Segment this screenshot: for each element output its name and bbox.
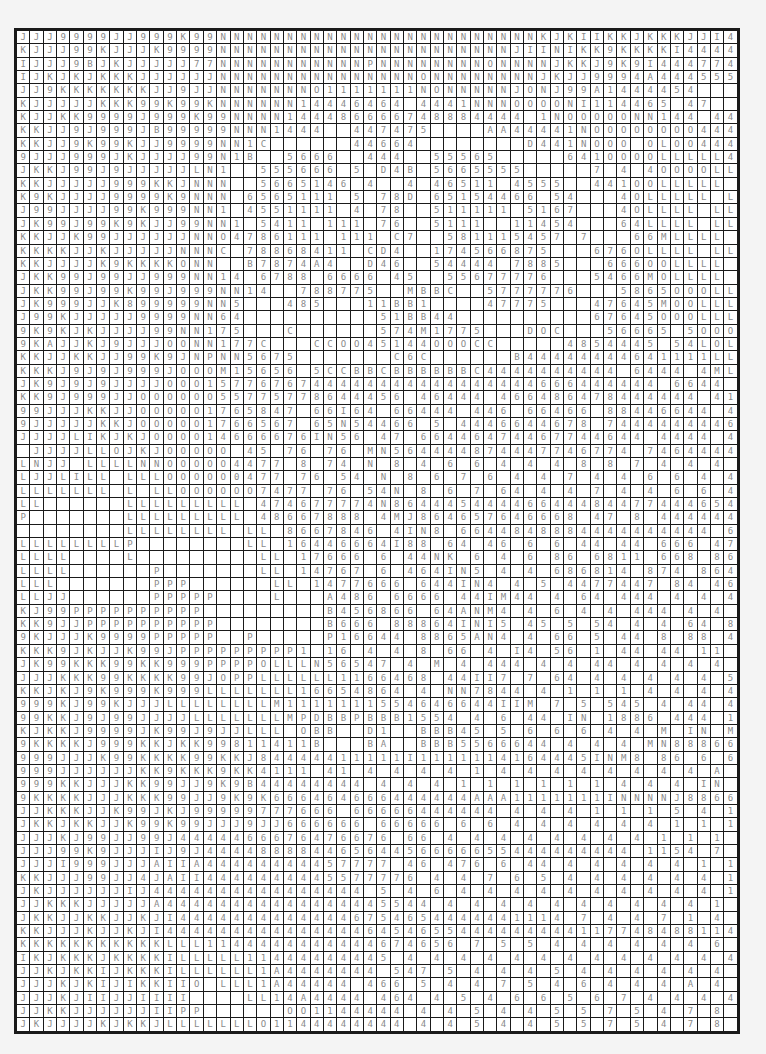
grid-cell: 4 [591, 525, 603, 537]
grid-cell [137, 551, 149, 563]
grid-cell: O [337, 338, 349, 350]
grid-cell: 9 [177, 98, 189, 110]
grid-cell: 8 [311, 391, 323, 403]
grid-cell: K [17, 685, 29, 697]
grid-cell: N [204, 258, 216, 270]
grid-cell: 6 [604, 431, 616, 443]
grid-cell [137, 578, 149, 590]
grid-cell: 4 [311, 1018, 323, 1030]
grid-cell: C [444, 285, 456, 297]
grid-cell [324, 471, 336, 483]
grid-cell: B [244, 778, 256, 790]
grid-cell [511, 672, 523, 684]
grid-cell [604, 778, 616, 790]
grid-cell: 4 [684, 511, 696, 523]
grid-cell [564, 538, 576, 550]
grid-cell: 4 [511, 431, 523, 443]
grid-cell: J [84, 898, 96, 910]
grid-cell: 4 [684, 445, 696, 457]
grid-cell: 6 [324, 805, 336, 817]
grid-cell: 4 [190, 898, 202, 910]
grid-cell: K [124, 258, 136, 270]
grid-cell: L [17, 458, 29, 470]
grid-cell: B [324, 725, 336, 737]
grid-cell: 7 [698, 98, 710, 110]
grid-cell: J [57, 391, 69, 403]
grid-cell: 4 [644, 84, 656, 96]
grid-cell [417, 952, 429, 964]
grid-cell: 9 [190, 805, 202, 817]
grid-cell: 7 [511, 285, 523, 297]
grid-cell: 6 [457, 525, 469, 537]
grid-cell: 1 [457, 218, 469, 230]
grid-cell: 5 [577, 1005, 589, 1017]
grid-cell: 4 [724, 431, 736, 443]
grid-cell: J [137, 151, 149, 163]
grid-cell: 1 [337, 672, 349, 684]
grid-cell: L [17, 565, 29, 577]
grid-cell: 5 [324, 418, 336, 430]
grid-cell: K [17, 925, 29, 937]
grid-cell: 5 [457, 151, 469, 163]
grid-cell: 6 [377, 138, 389, 150]
grid-cell: 4 [337, 1018, 349, 1030]
grid-cell: 6 [377, 978, 389, 990]
grid-cell: K [44, 805, 56, 817]
grid-cell: 7 [364, 832, 376, 844]
grid-cell: 7 [524, 672, 536, 684]
grid-cell: L [244, 525, 256, 537]
grid-cell: 8 [684, 792, 696, 804]
grid-cell [404, 98, 416, 110]
grid-cell: 1 [724, 818, 736, 830]
grid-cell: 4 [231, 912, 243, 924]
grid-cell: 4 [724, 58, 736, 70]
grid-cell: 7 [297, 471, 309, 483]
grid-cell: 4 [457, 885, 469, 897]
grid-cell: 4 [577, 351, 589, 363]
grid-cell: 5 [417, 712, 429, 724]
grid-cell: 9 [150, 832, 162, 844]
grid-cell: N [577, 124, 589, 136]
grid-cell [364, 551, 376, 563]
grid-cell: 4 [311, 245, 323, 257]
grid-cell: N [177, 325, 189, 337]
grid-cell: K [137, 912, 149, 924]
grid-cell [391, 551, 403, 563]
grid-cell [284, 311, 296, 323]
grid-cell: N [377, 44, 389, 56]
grid-cell: J [84, 191, 96, 203]
grid-cell: 1 [711, 925, 723, 937]
grid-cell: 8 [577, 458, 589, 470]
grid-cell [671, 458, 683, 470]
grid-cell: 5 [551, 178, 563, 190]
grid-cell: N [377, 71, 389, 83]
grid-cell: 4 [591, 818, 603, 830]
grid-cell: 5 [631, 698, 643, 710]
grid-cell: O [658, 124, 670, 136]
grid-cell: 1 [284, 765, 296, 777]
grid-cell: 4 [324, 111, 336, 123]
grid-cell: M [484, 605, 496, 617]
grid-cell: 4 [217, 898, 229, 910]
grid-cell: 4 [284, 912, 296, 924]
grid-cell: 5 [537, 178, 549, 190]
grid-cell: L [257, 565, 269, 577]
grid-cell: 6 [297, 538, 309, 550]
grid-cell: K [84, 965, 96, 977]
grid-cell: L [190, 498, 202, 510]
grid-cell: K [57, 712, 69, 724]
grid-cell: 8 [684, 631, 696, 643]
grid-cell: J [204, 672, 216, 684]
grid-cell: M [431, 658, 443, 670]
grid-cell: 6 [404, 832, 416, 844]
grid-cell: J [164, 218, 176, 230]
grid-cell: P [150, 565, 162, 577]
grid-cell: 4 [524, 458, 536, 470]
grid-cell [311, 591, 323, 603]
grid-cell: 7 [284, 805, 296, 817]
grid-cell: 4 [217, 925, 229, 937]
grid-cell: 4 [497, 525, 509, 537]
grid-cell: 4 [577, 765, 589, 777]
grid-cell [577, 992, 589, 1004]
grid-cell: 7 [257, 458, 269, 470]
